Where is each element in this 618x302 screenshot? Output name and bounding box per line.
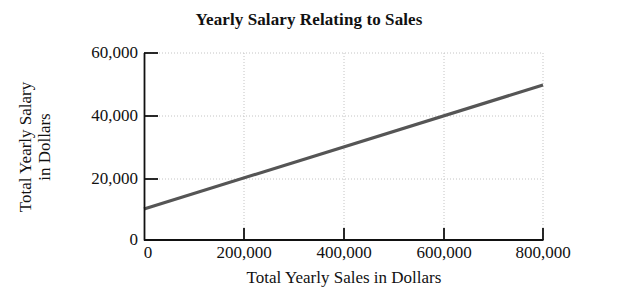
- y-tick-labels: 0 20,000 40,000 60,000: [36, 0, 138, 302]
- data-series-line: [144, 85, 543, 209]
- y-tick-marks: [144, 53, 158, 179]
- x-tick-marks: [244, 228, 543, 240]
- x-tick-label-400000: 400,000: [316, 243, 371, 263]
- x-tick-label-200000: 200,000: [216, 243, 271, 263]
- vertical-gridlines: [244, 53, 543, 240]
- y-tick-label-20000: 20,000: [38, 169, 138, 189]
- chart-figure: Yearly Salary Relating to Sales Total Ye…: [0, 0, 618, 302]
- y-tick-label-40000: 40,000: [38, 106, 138, 126]
- x-tick-label-600000: 600,000: [416, 243, 471, 263]
- x-tick-label-0: 0: [144, 243, 153, 263]
- y-tick-label-60000: 60,000: [38, 43, 138, 63]
- x-tick-label-800000: 800,000: [515, 243, 570, 263]
- y-tick-label-0: 0: [38, 230, 138, 250]
